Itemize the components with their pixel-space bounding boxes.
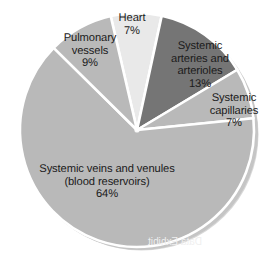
slice-label-veins-line2: (blood reservoirs): [27, 176, 187, 189]
hub-highlight: [134, 127, 139, 132]
slice-label-pulmonary-line1: Pulmonary: [54, 32, 126, 45]
slice-label-arteries-line3: arterioles: [160, 65, 240, 78]
slice-label-capillaries-line1: Systemic: [194, 92, 274, 105]
slice-label-systemic-capillaries: Systemic capillaries 7%: [194, 92, 274, 130]
slice-label-veins-line1: Systemic veins and venules: [27, 163, 187, 176]
slice-label-arteries-line2: arteries and: [160, 53, 240, 66]
slice-label-systemic-arteries: Systemic arteries and arterioles 13%: [160, 40, 240, 90]
slice-label-capillaries-line2: capillaries: [194, 105, 274, 118]
slice-label-arteries-line1: Systemic: [160, 40, 240, 53]
slice-label-pulmonary-value: 9%: [54, 57, 126, 70]
slice-label-pulmonary-line2: vessels: [54, 45, 126, 58]
slice-label-veins-value: 64%: [27, 188, 187, 201]
slice-label-heart-line1: Heart: [104, 12, 160, 25]
pie-chart: Heart 7% Pulmonary vessels 9% Systemic a…: [0, 0, 275, 273]
slice-label-pulmonary-vessels: Pulmonary vessels 9%: [54, 32, 126, 70]
slice-label-systemic-veins: Systemic veins and venules (blood reserv…: [27, 163, 187, 201]
slice-label-arteries-value: 13%: [160, 78, 240, 91]
slice-label-capillaries-value: 7%: [194, 117, 274, 130]
